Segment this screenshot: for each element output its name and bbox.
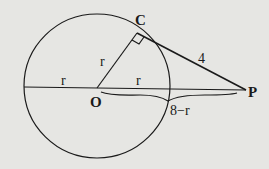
label-point-C: C (135, 13, 146, 28)
label-point-O: O (90, 95, 102, 110)
tangent-CP (137, 33, 246, 90)
segment-OP (97, 88, 246, 90)
label-radius-right: r (136, 74, 141, 88)
label-radius-OC: r (100, 55, 105, 69)
label-segment-8-minus-r: 8−r (170, 104, 190, 118)
label-radius-left: r (61, 74, 66, 88)
label-tangent-length: 4 (198, 52, 205, 66)
circle (24, 14, 170, 158)
label-point-P: P (248, 85, 257, 100)
geometry-diagram: C O P r r r 4 8−r (0, 0, 269, 169)
